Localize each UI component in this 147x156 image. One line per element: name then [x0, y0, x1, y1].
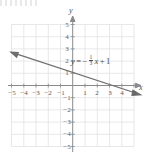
fraction-denominator: 3 [89, 61, 93, 67]
y-tick-label--3: −3 [63, 119, 70, 126]
graph-figure: y x −5 −4 −3 −2 −1 1 2 3 4 5 5 4 3 2 1 −… [0, 0, 147, 156]
y-tick-label--1: −1 [63, 94, 70, 101]
x-tick-label-1: 1 [83, 90, 87, 97]
coordinate-plane [0, 0, 147, 156]
equation-lhs: y [71, 57, 75, 66]
x-tick-label--4: −4 [20, 90, 27, 97]
y-tick-label--4: −4 [63, 131, 70, 138]
x-tick-label--3: −3 [32, 90, 39, 97]
equation-equals: = [76, 57, 81, 66]
equation-variable: x [94, 57, 98, 66]
x-tick-label--5: −5 [8, 90, 15, 97]
y-tick-label-1: 1 [65, 70, 69, 77]
equation-minus-sign: − [83, 57, 88, 66]
x-axis [8, 83, 141, 88]
equation-fraction: 1 3 [89, 55, 93, 67]
y-tick-label-5: 5 [65, 21, 69, 28]
x-tick-label-5: 5 [132, 90, 136, 97]
y-tick-label-4: 4 [65, 33, 69, 40]
y-tick-label-2: 2 [65, 58, 69, 65]
equation-intercept: 1 [106, 57, 110, 66]
x-tick-label-4: 4 [120, 90, 124, 97]
y-tick-label--5: −5 [63, 143, 70, 150]
x-tick-label--2: −2 [44, 90, 51, 97]
x-axis-label: x [139, 84, 143, 92]
y-tick-label-3: 3 [65, 45, 69, 52]
x-tick-label-2: 2 [95, 90, 99, 97]
equation-plus-sign: + [100, 57, 105, 66]
y-tick-label--2: −2 [63, 106, 70, 113]
y-axis-label: y [69, 7, 73, 15]
equation-annotation: y = − 1 3 x + 1 [71, 55, 110, 67]
x-tick-label-3: 3 [108, 90, 112, 97]
